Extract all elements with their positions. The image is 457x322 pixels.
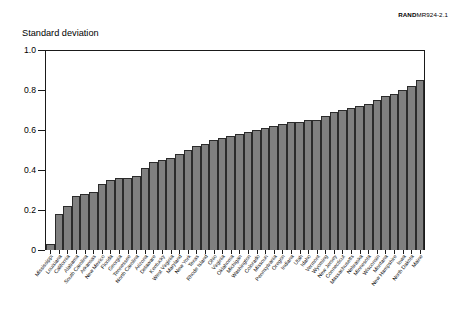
bar [355,106,364,250]
x-label-slot: Maine [416,254,425,320]
bar [80,194,89,250]
y-tick-mark [38,250,45,251]
bar [304,120,313,250]
bar [347,108,356,250]
y-tick-label: 0.6 [0,125,36,135]
source-credit: RANDMR924-2.1 [398,11,448,18]
bar [201,144,210,250]
x-axis-labels: MississippiLouisianaCaliforniaAlabamaSou… [45,254,425,320]
bar [149,162,158,250]
bar [184,150,193,250]
bar [158,160,167,250]
bar [295,122,304,250]
credit-code: MR924-2.1 [416,11,448,18]
bar [390,94,399,250]
y-tick-mark [38,90,45,91]
y-tick-label: 0.8 [0,85,36,95]
bar [278,124,287,250]
bar [261,128,270,250]
bar [373,100,382,250]
figure-container: RANDMR924-2.1 Standard deviation 00.20.4… [0,0,457,322]
bar [175,154,184,250]
bar-series [45,50,425,250]
bar [218,138,227,250]
bar [244,132,253,250]
bar [338,110,347,250]
bar [98,184,107,250]
bar [226,136,235,250]
bar [252,130,261,250]
bar [269,126,278,250]
bar [63,206,72,250]
y-tick-label: 0.4 [0,165,36,175]
y-tick-mark [38,130,45,131]
bar [398,90,407,250]
bar [115,178,124,250]
bar [132,176,141,250]
y-tick-mark [38,210,45,211]
bar [72,196,81,250]
y-tick-label: 0.2 [0,205,36,215]
bar [192,146,201,250]
bar [209,140,218,250]
bar [407,86,416,250]
y-tick-mark [38,50,45,51]
bar [416,80,425,250]
bar [330,112,339,250]
y-tick-label: 0 [0,245,36,255]
bar [321,116,330,250]
bar [235,134,244,250]
y-tick-mark [38,170,45,171]
bar [106,180,115,250]
bar [123,178,132,250]
bar [364,104,373,250]
bar [55,214,64,250]
bar [287,122,296,250]
bar [141,168,150,250]
bar [381,96,390,250]
bar [89,192,98,250]
bar [166,158,175,250]
y-tick-label: 1.0 [0,45,36,55]
bar [312,120,321,250]
credit-brand: RAND [398,11,416,18]
y-axis-title: Standard deviation [22,28,99,38]
